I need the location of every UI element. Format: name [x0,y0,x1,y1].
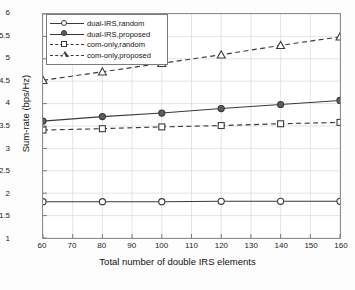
y-tick-label: 3 [6,145,10,153]
legend-line-sample [50,34,84,35]
y-tick-label: 2.5 [0,167,10,175]
x-tick-label: 130 [238,242,264,250]
legend-item-2[interactable]: dual-IRS,proposed [50,29,163,39]
square-open-icon [61,41,67,47]
legend-item-4[interactable]: com-only,proposed [50,50,163,60]
y-tick-label: 1 [6,235,10,243]
legend-key [50,19,84,29]
data-point-marker [217,51,225,58]
series-3 [43,119,340,133]
series-2 [43,97,340,124]
legend-marker-square-open-icon [61,41,67,47]
y-tick-label: 2 [6,190,10,198]
legend-marker-circle-open-icon [61,20,67,26]
data-point-marker [159,110,165,116]
x-tick-label: 140 [268,242,294,250]
series-1 [43,198,340,205]
legend-label: com-only,proposed [84,51,151,60]
x-tick-label: 70 [59,242,85,250]
y-axis-title: Sum-rate (bps/Hz) [20,34,31,194]
y-tick-label: 3.5 [0,122,10,130]
data-point-marker [278,198,284,204]
figure-container: 11.522.533.544.555.56 607080901001101201… [0,0,355,290]
legend-marker-circle-filled-icon [61,30,67,36]
legend-label: dual-IRS,proposed [84,30,150,39]
data-point-marker [218,105,224,111]
legend-line-sample [50,44,84,45]
x-tick-label: 90 [119,242,145,250]
data-point-marker [337,97,340,103]
data-point-marker [99,126,105,132]
data-point-marker [218,198,224,204]
data-point-marker [337,198,340,204]
x-tick-label: 100 [149,242,175,250]
triangle-open-icon [61,51,69,57]
legend-key [50,40,84,50]
y-tick-label: 4.5 [0,77,10,85]
series-line [43,100,340,121]
x-tick-label: 160 [328,242,354,250]
data-point-marker [43,118,46,124]
legend: dual-IRS,randomdual-IRS,proposedcom-only… [46,14,168,65]
y-tick-label: 5 [6,54,10,62]
legend-line-sample [50,23,84,24]
data-point-marker [336,33,340,40]
x-axis-title: Total number of double IRS elements [0,256,355,267]
legend-item-1[interactable]: dual-IRS,random [50,19,163,29]
data-point-marker [278,101,284,107]
y-tick-label: 4 [6,99,10,107]
x-tick-label: 120 [208,242,234,250]
data-point-marker [43,199,46,205]
legend-label: com-only,random [84,40,145,49]
series-line [43,122,340,130]
y-tick-label: 6 [6,9,10,17]
data-point-marker [278,121,284,127]
data-point-marker [43,127,46,133]
legend-key [50,50,84,60]
circle-open-icon [61,20,67,26]
y-tick-label: 5.5 [0,32,10,40]
circle-filled-icon [61,30,67,36]
data-point-marker [99,114,105,120]
data-point-marker [218,123,224,129]
data-point-marker [277,41,285,48]
x-tick-label: 110 [179,242,205,250]
data-point-marker [159,124,165,130]
legend-key [50,29,84,39]
legend-marker-triangle-open-icon [61,51,69,57]
y-tick-label: 1.5 [0,212,10,220]
legend-label: dual-IRS,random [84,19,144,28]
data-point-marker [159,199,165,205]
x-tick-label: 60 [29,242,55,250]
data-point-marker [337,119,340,125]
x-tick-label: 150 [298,242,324,250]
data-point-marker [99,199,105,205]
x-tick-label: 80 [89,242,115,250]
legend-item-3[interactable]: com-only,random [50,40,163,50]
